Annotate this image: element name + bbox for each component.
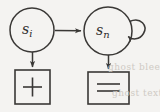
node-label-s-i-subscript: i	[29, 28, 32, 39]
diagram-canvas: si sn ghost bleed ghost text	[0, 0, 160, 112]
diagram-vector-layer	[0, 0, 160, 112]
box-equals	[88, 72, 129, 104]
node-label-s-i: si	[22, 22, 32, 39]
node-label-s-n: sn	[96, 23, 110, 40]
node-label-s-n-subscript: n	[103, 29, 109, 40]
